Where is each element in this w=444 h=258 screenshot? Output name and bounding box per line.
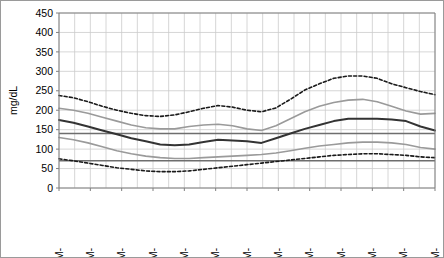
x-tick-label: 12:00 PM- [242,248,253,258]
x-tick-label: 4:00 AM- [116,248,127,258]
chart-frame: 05010015020025030035040045012:00 AM-2:00… [0,0,444,258]
y-tick-label: 300 [35,65,53,77]
x-tick-label: 2:00 PM- [273,248,284,258]
y-tick-label: 350 [35,46,53,58]
x-tick-label: 10:00 PM- [398,248,409,258]
y-tick-label: 200 [35,104,53,116]
y-tick-label: 250 [35,84,53,96]
y-axis-ticks: 050100150200250300350400450 [35,7,59,194]
x-tick-label: 8:00 AM- [179,248,190,258]
glucose-profile-chart: 05010015020025030035040045012:00 AM-2:00… [1,1,444,258]
x-tick-label: 12:00 AM- [430,248,441,258]
y-tick-label: 400 [35,26,53,38]
chart-canvas: 05010015020025030035040045012:00 AM-2:00… [1,1,444,258]
y-tick-label: 100 [35,143,53,155]
y-tick-label: 50 [41,162,53,174]
y-axis-title: mg/dL [7,86,19,115]
y-tick-label: 450 [35,7,53,19]
y-tick-label: 0 [47,182,53,194]
x-axis-ticks: 12:00 AM-2:00 AM-4:00 AM-6:00 AM-8:00 AM… [54,188,441,258]
x-tick-label: 6:00 PM- [336,248,347,258]
x-tick-label: 4:00 PM- [304,248,315,258]
x-tick-label: 10:00 AM- [210,248,221,258]
x-tick-label: 2:00 AM- [85,248,96,258]
y-tick-label: 150 [35,123,53,135]
x-tick-label: 12:00 AM- [54,248,65,258]
x-tick-label: 8:00 PM- [367,248,378,258]
x-tick-label: 6:00 AM- [148,248,159,258]
